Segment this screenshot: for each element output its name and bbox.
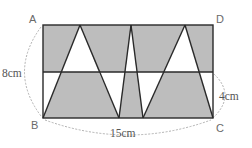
measurement-lower-strip: 4cm xyxy=(219,90,239,102)
arc-height-8cm xyxy=(25,27,42,116)
vertex-label-b: B xyxy=(31,119,38,131)
vertex-label-c: C xyxy=(216,122,224,134)
vertex-label-d: D xyxy=(216,13,224,25)
measurement-base: 15cm xyxy=(110,127,136,139)
measurement-height: 8cm xyxy=(2,67,22,79)
geometry-diagram: A D B C 8cm 15cm 4cm xyxy=(0,0,252,148)
vertex-label-a: A xyxy=(29,13,37,25)
